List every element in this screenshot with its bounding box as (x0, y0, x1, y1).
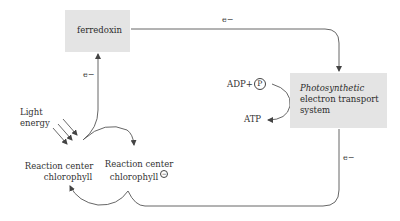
atp-label: ATP (244, 114, 261, 125)
phosphate-circle-icon: P (254, 78, 266, 90)
negative-charge-icon: − (160, 170, 168, 178)
pets-label-line2: electron transport (300, 94, 379, 105)
adp-label: ADP+ (227, 79, 253, 89)
pets-label: Photosynthetic electron transport system (300, 83, 379, 116)
arrow-adp-to-atp (268, 84, 290, 120)
cyclic-photophosphorylation-diagram: ferredoxin Photosynthetic electron trans… (0, 0, 400, 221)
rc-ground-line1: Reaction center (24, 161, 94, 172)
rc-ground-line2: chlorophyll (24, 172, 94, 183)
light-energy-label: Light energy (20, 107, 50, 129)
arrow-ferredoxin-to-pets (131, 29, 339, 71)
rc-excited-line1: Reaction center (103, 159, 175, 170)
arc-excitation (84, 127, 134, 145)
arc-return (70, 186, 128, 205)
pets-label-line3: system (300, 105, 379, 116)
electron-label-ferredoxin-to-pets: e− (222, 14, 233, 25)
arrow-rc-to-ferredoxin (83, 54, 98, 140)
ferredoxin-box: ferredoxin (65, 10, 130, 52)
electron-label-rc-to-ferredoxin: e− (83, 69, 94, 80)
rc-excited-line2-text: chlorophyll (110, 172, 158, 182)
light-energy-line2: energy (20, 118, 50, 129)
rc-excited-line2: chlorophyll− (103, 170, 175, 183)
light-energy-arrows (53, 119, 77, 144)
ferredoxin-label: ferredoxin (77, 25, 122, 36)
pets-box: Photosynthetic electron transport system (290, 73, 387, 128)
adp-phosphate-label: ADP+P (227, 78, 266, 90)
rc-ground-label: Reaction center chlorophyll (24, 161, 94, 183)
electron-label-pets-to-rc: e− (343, 152, 354, 163)
rc-excited-label: Reaction center chlorophyll− (103, 159, 175, 183)
light-energy-line1: Light (20, 107, 50, 118)
pets-label-line1: Photosynthetic (300, 83, 379, 94)
